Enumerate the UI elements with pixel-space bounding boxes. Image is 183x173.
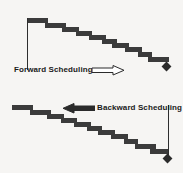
milestone-diamond-icon	[163, 154, 173, 164]
gantt-bar	[150, 149, 168, 154]
arrow-left-icon	[62, 103, 95, 114]
backward-scheduling-chart: Backward Scheduling	[0, 0, 183, 87]
backward-scheduling-label: Backward Scheduling	[97, 103, 182, 113]
